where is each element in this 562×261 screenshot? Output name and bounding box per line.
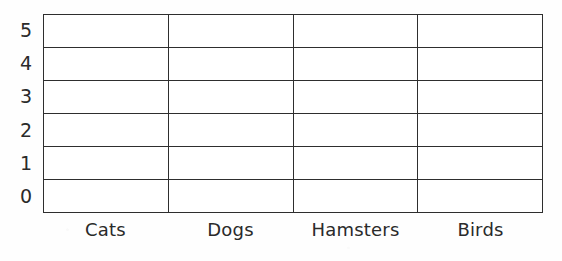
grid-cell-cats-0[interactable] (44, 180, 169, 212)
grid-row (44, 48, 542, 81)
grid-cell-dogs-3[interactable] (169, 81, 294, 113)
grid-cell-cats-5[interactable] (44, 15, 169, 47)
grid-row (44, 81, 542, 114)
y-axis-tick-3: 3 (11, 80, 41, 113)
grid-cell-cats-1[interactable] (44, 147, 169, 179)
grid-cell-hamsters-0[interactable] (294, 180, 419, 212)
y-axis: 5 4 3 2 1 0 (11, 14, 41, 213)
y-axis-tick-5: 5 (11, 14, 41, 47)
x-axis-label-birds: Birds (418, 219, 543, 251)
grid-cell-birds-4[interactable] (418, 48, 542, 80)
grid-row (44, 180, 542, 212)
grid-cell-dogs-4[interactable] (169, 48, 294, 80)
bar-graph-worksheet: 5 4 3 2 1 0 (0, 0, 562, 261)
grid-cell-birds-2[interactable] (418, 114, 542, 146)
grid-cell-cats-3[interactable] (44, 81, 169, 113)
x-axis-label-cats: Cats (43, 219, 168, 251)
grid-row (44, 15, 542, 48)
grid-cell-birds-1[interactable] (418, 147, 542, 179)
graph-grid (43, 14, 543, 213)
x-axis-label-dogs: Dogs (168, 219, 293, 251)
x-axis: Cats Dogs Hamsters Birds (43, 219, 543, 251)
x-axis-label-hamsters: Hamsters (293, 219, 418, 251)
grid-cell-cats-2[interactable] (44, 114, 169, 146)
grid-cell-birds-5[interactable] (418, 15, 542, 47)
y-axis-tick-2: 2 (11, 114, 41, 147)
grid-cell-hamsters-1[interactable] (294, 147, 419, 179)
grid-cell-hamsters-4[interactable] (294, 48, 419, 80)
grid-cell-cats-4[interactable] (44, 48, 169, 80)
grid-row (44, 147, 542, 180)
grid-cell-dogs-5[interactable] (169, 15, 294, 47)
grid-cell-hamsters-2[interactable] (294, 114, 419, 146)
y-axis-tick-4: 4 (11, 47, 41, 80)
grid-row (44, 114, 542, 147)
y-axis-tick-0: 0 (11, 180, 41, 213)
grid-cell-hamsters-5[interactable] (294, 15, 419, 47)
grid-cell-dogs-0[interactable] (169, 180, 294, 212)
grid-cell-birds-3[interactable] (418, 81, 542, 113)
grid-cell-dogs-2[interactable] (169, 114, 294, 146)
grid-cell-hamsters-3[interactable] (294, 81, 419, 113)
y-axis-tick-1: 1 (11, 147, 41, 180)
grid-cell-birds-0[interactable] (418, 180, 542, 212)
grid-cell-dogs-1[interactable] (169, 147, 294, 179)
